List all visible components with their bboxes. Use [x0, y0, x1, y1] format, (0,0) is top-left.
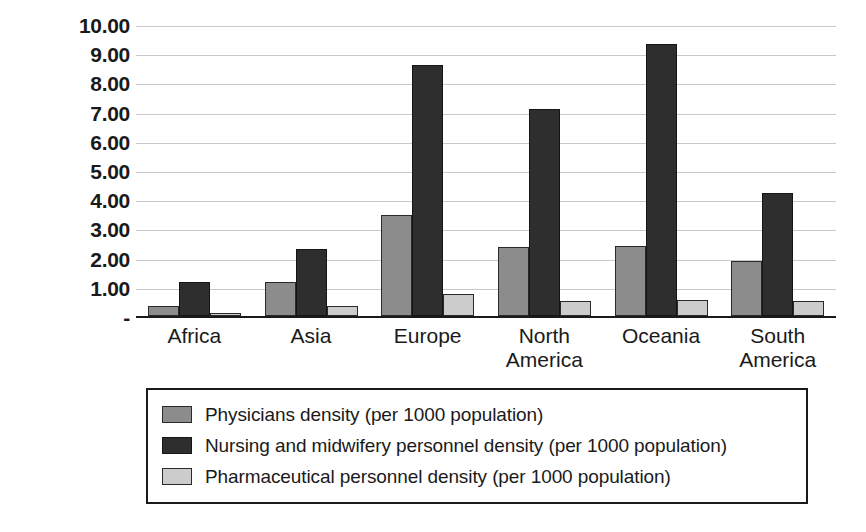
bar	[210, 313, 241, 316]
grid-area	[136, 26, 836, 318]
x-axis-label: Africa	[136, 324, 253, 371]
x-axis-label-line: Asia	[291, 324, 332, 347]
y-axis-tick-label: 7.00	[90, 102, 130, 126]
bar	[731, 261, 762, 316]
bar-group	[136, 24, 253, 316]
bar	[529, 109, 560, 316]
y-axis-tick-label: 2.00	[90, 248, 130, 272]
legend-item: Physicians density (per 1000 population)	[162, 399, 792, 430]
x-axis-labels: AfricaAsiaEuropeNorthAmericaOceaniaSouth…	[136, 324, 836, 371]
bar	[793, 301, 824, 316]
legend-item: Nursing and midwifery personnel density …	[162, 430, 792, 461]
bar	[615, 246, 646, 316]
x-axis-label: Europe	[369, 324, 486, 371]
x-axis-label: SouthAmerica	[719, 324, 836, 371]
x-axis-label-line: Europe	[394, 324, 462, 347]
bar-groups	[136, 24, 836, 316]
bar	[443, 294, 474, 316]
y-axis-tick-label: 9.00	[90, 43, 130, 67]
bar	[646, 44, 677, 316]
bar	[148, 306, 179, 316]
bar-group	[603, 24, 720, 316]
bar-group	[369, 24, 486, 316]
bar	[560, 301, 591, 316]
legend-label: Pharmaceutical personnel density (per 10…	[205, 466, 671, 488]
x-axis-label-line: America	[719, 348, 836, 372]
plot-area: 10.009.008.007.006.005.004.003.002.001.0…	[0, 0, 866, 380]
legend-label: Nursing and midwifery personnel density …	[205, 435, 727, 457]
bar	[677, 300, 708, 316]
y-axis: 10.009.008.007.006.005.004.003.002.001.0…	[18, 26, 130, 318]
x-axis-label-line: South	[750, 324, 805, 347]
bar	[412, 65, 443, 316]
x-axis-label-line: America	[486, 348, 603, 372]
x-axis-label: Oceania	[603, 324, 720, 371]
x-axis-label-line: Oceania	[622, 324, 700, 347]
bar	[498, 247, 529, 316]
legend: Physicians density (per 1000 population)…	[146, 388, 808, 504]
bar	[296, 249, 327, 316]
y-axis-tick-label: 3.00	[90, 218, 130, 242]
bar-group	[719, 24, 836, 316]
bar-chart: 10.009.008.007.006.005.004.003.002.001.0…	[0, 0, 866, 532]
bar	[762, 193, 793, 316]
y-axis-tick-label: 5.00	[90, 160, 130, 184]
legend-swatch-icon	[162, 406, 192, 423]
x-axis-label: Asia	[253, 324, 370, 371]
bar	[327, 306, 358, 316]
y-axis-tick-label: 4.00	[90, 189, 130, 213]
x-axis-label: NorthAmerica	[486, 324, 603, 371]
y-axis-tick-label: 1.00	[90, 277, 130, 301]
y-axis-tick-label: 10.00	[79, 14, 130, 38]
y-axis-tick-label: 6.00	[90, 131, 130, 155]
bar-group	[253, 24, 370, 316]
legend-swatch-icon	[162, 437, 192, 454]
x-axis-label-line: Africa	[167, 324, 221, 347]
x-axis-line	[136, 316, 836, 318]
y-axis-tick-label: -	[123, 306, 130, 330]
bar-group	[486, 24, 603, 316]
legend-swatch-icon	[162, 468, 192, 485]
legend-label: Physicians density (per 1000 population)	[205, 404, 543, 426]
y-axis-tick-label: 8.00	[90, 72, 130, 96]
legend-item: Pharmaceutical personnel density (per 10…	[162, 461, 792, 492]
bar	[265, 282, 296, 316]
x-axis-label-line: North	[519, 324, 570, 347]
bar	[381, 215, 412, 316]
bar	[179, 282, 210, 316]
